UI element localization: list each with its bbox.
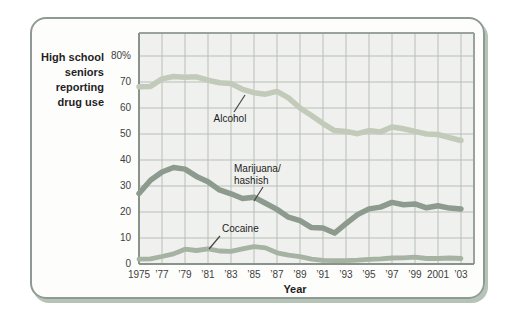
chart-title-line-4: drug use bbox=[32, 95, 104, 110]
plot-background bbox=[139, 33, 474, 264]
chart-title-line-1: High school bbox=[32, 50, 104, 65]
figure: High school seniors reporting drug use 0… bbox=[0, 0, 512, 322]
cocaine-series-label: Cocaine bbox=[222, 223, 259, 234]
marijuana-series-label-line1: Marijuana/ bbox=[234, 163, 281, 175]
chart-title: High school seniors reporting drug use bbox=[32, 50, 104, 110]
alcohol-series-label: Alcohol bbox=[211, 113, 249, 124]
marijuana-series-label: Marijuana/ hashish bbox=[234, 163, 281, 187]
chart-title-line-3: reporting bbox=[32, 80, 104, 95]
chart-title-line-2: seniors bbox=[32, 65, 104, 80]
x-axis-title: Year bbox=[265, 283, 325, 295]
marijuana-series-label-line2: hashish bbox=[234, 175, 281, 187]
chart-card: High school seniors reporting drug use 0… bbox=[30, 17, 485, 299]
